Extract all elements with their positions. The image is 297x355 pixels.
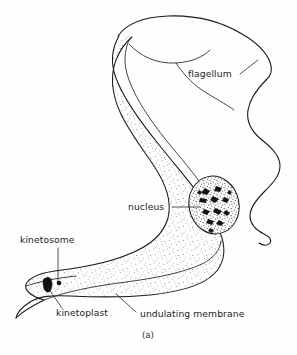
cell-body — [0, 0, 297, 355]
label-undulating-membrane: undulating membrane — [140, 308, 245, 319]
kinetosome — [57, 281, 62, 286]
label-nucleus: nucleus — [128, 201, 164, 212]
leader-flagellum — [240, 60, 258, 74]
kinetoplast — [43, 277, 52, 292]
figure-container: flagellum nucleus kinetosome kinetoplast… — [0, 0, 297, 355]
label-flagellum: flagellum — [188, 68, 232, 79]
figure-caption: (a) — [142, 330, 154, 340]
label-kinetosome: kinetosome — [20, 234, 75, 245]
label-kinetoplast: kinetoplast — [56, 307, 108, 318]
trypanosome-diagram: flagellum nucleus kinetosome kinetoplast… — [0, 0, 297, 355]
